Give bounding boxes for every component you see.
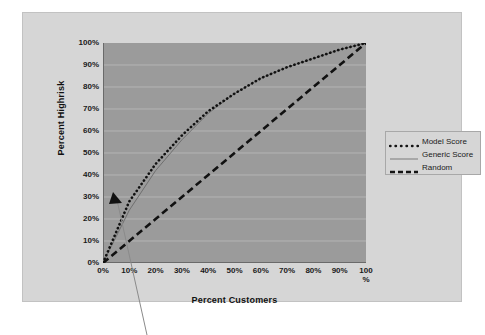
chart-legend[interactable]: Model Score Generic Score Random <box>385 131 481 175</box>
legend-label-random: Random <box>422 163 452 173</box>
y-tick-20: 20% <box>55 215 99 223</box>
x-tick-100: 100 % <box>349 266 383 284</box>
y-tick-60: 60% <box>55 127 99 135</box>
legend-item-model-score[interactable]: Model Score <box>389 135 477 148</box>
y-tick-70: 70% <box>55 105 99 113</box>
y-tick-100: 100% <box>55 39 99 47</box>
legend-item-generic-score[interactable]: Generic Score <box>389 148 477 161</box>
x-axis-tick-labels: 0% 10% 20% 30% 40% 50% 60% 70% 80% 90% 1… <box>103 266 366 292</box>
legend-label-generic-score: Generic Score <box>422 150 473 160</box>
y-tick-90: 90% <box>55 61 99 69</box>
y-axis-tick-labels: 100% 90% 80% 70% 60% 50% 40% 30% 20% 10%… <box>53 43 99 263</box>
y-tick-30: 30% <box>55 193 99 201</box>
y-tick-80: 80% <box>55 83 99 91</box>
screenshot-canvas: Percent Highrisk 100% 90% 80% 70% 60% 50… <box>0 0 485 335</box>
chart-frame[interactable]: Percent Highrisk 100% 90% 80% 70% 60% 50… <box>22 12 462 302</box>
plot-area[interactable] <box>103 43 366 263</box>
y-tick-10: 10% <box>55 237 99 245</box>
legend-item-random[interactable]: Random <box>389 161 477 174</box>
legend-swatch-solid-icon <box>389 150 419 160</box>
legend-label-model-score: Model Score <box>422 137 467 147</box>
y-tick-50: 50% <box>55 149 99 157</box>
x-tick-100-percent: % <box>362 275 369 284</box>
x-axis-title: Percent Customers <box>103 295 366 305</box>
plot-canvas <box>103 43 366 263</box>
y-tick-40: 40% <box>55 171 99 179</box>
x-tick-100-number: 100 <box>359 266 372 275</box>
legend-swatch-dashed-icon <box>389 163 419 173</box>
legend-swatch-dotted-icon <box>389 137 419 147</box>
